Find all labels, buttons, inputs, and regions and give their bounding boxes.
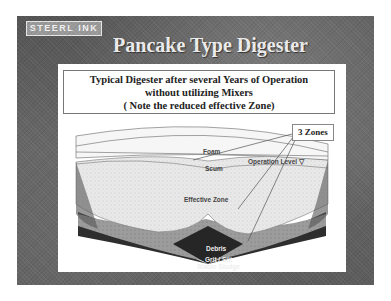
stable-sludge-label: Stable Sludge xyxy=(197,263,240,270)
digester-diagram xyxy=(58,64,346,272)
foam-layer xyxy=(76,127,328,160)
slide: STEERL INK Pancake Type Digester Typical… xyxy=(17,16,374,285)
content-panel: Typical Digester after several Years of … xyxy=(58,64,346,272)
three-zones-callout: 3 Zones xyxy=(292,124,334,141)
grit-silt-label: Grit / Silt xyxy=(205,256,232,263)
scum-label: Scum xyxy=(205,165,223,172)
effective-zone-label: Effective Zone xyxy=(184,196,228,203)
slide-title: Pancake Type Digester xyxy=(17,34,374,57)
operation-level-label: Operation Level ▽ xyxy=(248,158,304,166)
foam-label: Foam xyxy=(203,148,220,155)
debris-label: Debris xyxy=(206,245,226,252)
